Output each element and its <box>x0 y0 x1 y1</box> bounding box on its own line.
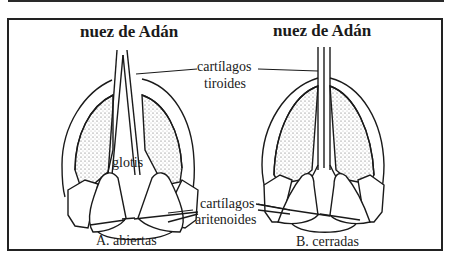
thyroid-label-line2: tiroides <box>204 76 246 92</box>
panel-b-caption: B. cerradas <box>296 234 359 250</box>
panel-a-open-vocal-folds <box>62 50 198 240</box>
panel-b-closed-vocal-folds <box>256 47 384 232</box>
thyroid-label-line1: cartílagos <box>197 59 251 75</box>
glottis-label: glotis <box>112 155 143 171</box>
arytenoid-label-line2: aritenoides <box>195 212 256 228</box>
panel-b-title: nuez de Adán <box>273 21 371 41</box>
panel-a-title: nuez de Adán <box>80 22 178 42</box>
panel-a-caption: A. abiertas <box>96 233 157 249</box>
arytenoid-label-line1: cartílagos <box>200 196 254 212</box>
